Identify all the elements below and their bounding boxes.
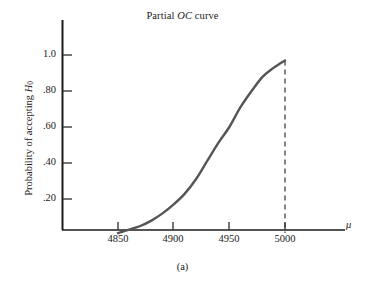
y-tick-label-0.60: .60 (22, 120, 56, 131)
y-axis-ticks (63, 55, 72, 199)
x-tick-label-4900: 4900 (148, 233, 198, 244)
x-tick-label-4950: 4950 (204, 233, 254, 244)
y-tick-label-0.20: .20 (22, 192, 56, 203)
y-tick-label-0.80: .80 (22, 84, 56, 95)
oc-curve-figure: Partial OC curve Probability of acceptin… (0, 0, 365, 289)
y-tick-label-1.0: 1.0 (22, 48, 56, 59)
plot-area (0, 0, 365, 289)
oc-curve-path (118, 60, 285, 233)
x-tick-label-4850: 4850 (93, 233, 143, 244)
x-tick-label-5000: 5000 (260, 233, 310, 244)
x-axis-label-mu: μ (346, 219, 351, 230)
figure-subcaption: (a) (0, 261, 365, 272)
y-tick-label-0.40: .40 (22, 156, 56, 167)
